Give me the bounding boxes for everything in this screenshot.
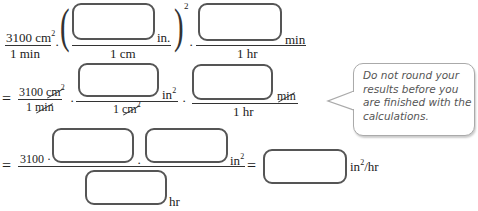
row1-lead-numerator: 3100 cm2 [6,31,55,44]
paren-exponent: 2 [184,1,189,11]
cancelled-unit: min [35,101,54,114]
answer-box-3[interactable] [78,63,159,97]
answer-box-4[interactable] [192,64,273,100]
row1-lead-denominator: 1 min [10,47,40,60]
bubble-tail-cover [352,92,356,109]
text: cm [122,102,137,116]
row2-lead-denominator: 1 min [26,101,54,114]
multiply-dot: · [189,38,193,51]
equals-sign: = [2,157,11,175]
multiply-dot: · [70,94,74,107]
answer-box-1[interactable] [72,3,155,40]
answer-box-6[interactable] [145,128,228,163]
text: 1 [113,102,119,116]
row2-frac2-denominator: 1 hr [233,105,254,118]
text: 3100 [19,85,43,99]
text: in [350,159,360,174]
multiply-dot: · [182,94,186,107]
answer-box-7[interactable] [85,170,167,205]
text: in [162,87,172,102]
exponent: 2 [240,152,244,161]
text: /hr [364,159,378,174]
row2-lead-numerator: 3100 cm2 [19,86,65,99]
row2-frac1-unit: in2 [162,88,176,101]
hint-text: Do not round your results before you are… [363,69,475,123]
answer-box-2[interactable] [198,3,282,41]
row1-frac1-denominator: 1 cm [110,47,136,60]
row3-fraction-bar [18,166,245,167]
cancelled-unit: cm2 [46,86,65,99]
cancelled-unit: cm2 [122,103,141,116]
multiply-dot: · [137,156,141,169]
row3-num-lead: 3100 · [20,153,51,166]
row1-frac2-denominator: 1 hr [237,47,258,60]
row2-frac2-unit: min [277,90,296,103]
exponent: 2 [61,83,65,92]
text: 1 [26,100,32,114]
hint-bubble: Do not round your results before you are… [353,63,475,136]
exponent: 2 [172,86,176,95]
cancelled-unit: min [277,90,296,103]
result-box[interactable] [263,149,347,184]
equals-sign: = [2,90,11,108]
open-parenthesis: ( [60,2,70,50]
answer-box-5[interactable] [52,128,134,163]
text: cm [46,85,61,99]
equals-sign: = [247,157,256,175]
text: 3100 cm [6,30,51,45]
result-unit: in2/hr [350,160,379,173]
row1-frac1-unit: in. [157,31,170,44]
close-parenthesis: ) [174,2,184,50]
row3-den-unit: hr [169,195,180,208]
multiply-dot: · [55,38,59,51]
exponent: 2 [137,100,141,109]
row2-frac1-denominator: 1 cm2 [113,103,141,116]
